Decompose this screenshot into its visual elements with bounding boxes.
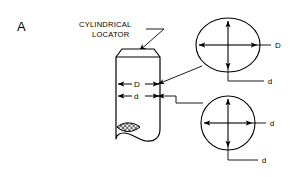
locator-dimension-major-label: D <box>134 80 140 89</box>
panel-letter: A <box>17 19 26 34</box>
top-section-view: D d <box>196 18 281 86</box>
bottom-section-leader-line <box>158 96 203 103</box>
callout-label-line2: LOCATOR <box>92 30 130 39</box>
diagram-canvas: A CYLINDRICAL LOCATOR D <box>0 0 296 177</box>
top-section-leader-line <box>158 66 202 84</box>
bottom-section-vertical-label: d <box>262 156 266 165</box>
bottom-section-horizontal-label: d <box>270 119 274 128</box>
figure-panel-a: A CYLINDRICAL LOCATOR D <box>0 0 296 177</box>
bottom-section-view: d d <box>201 96 274 165</box>
top-section-horizontal-label: D <box>275 41 281 50</box>
locator-dimension-minor-label: d <box>134 92 138 101</box>
callout-label-line1: CYLINDRICAL <box>79 20 131 29</box>
top-section-vertical-label: d <box>268 77 272 86</box>
callout-leader-line <box>139 29 164 51</box>
